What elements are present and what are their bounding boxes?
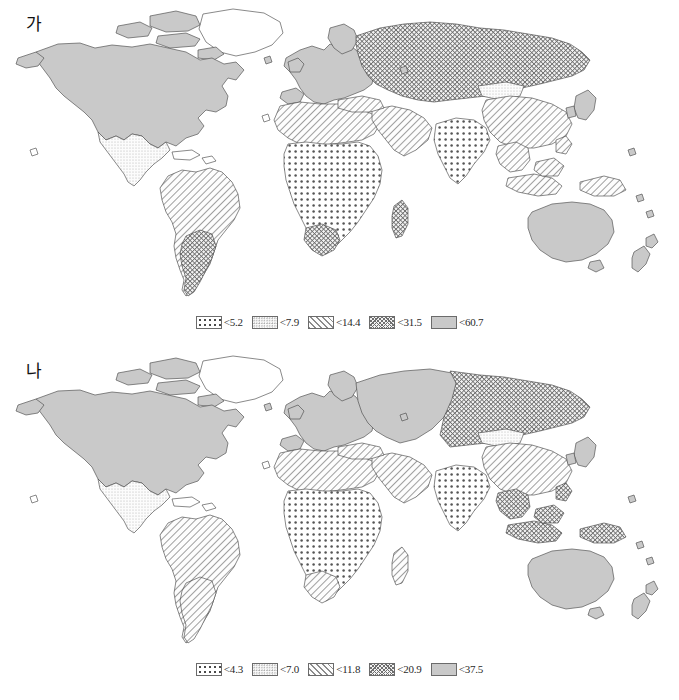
region-philippines: [556, 483, 572, 501]
region-japan: [574, 90, 596, 120]
region-new-guinea: [580, 176, 626, 196]
region-middle-east: [372, 453, 432, 503]
legend-swatch-solid-icon: [431, 316, 457, 329]
region-korea: [566, 106, 576, 118]
region-korea: [566, 453, 576, 465]
region-iberia: [280, 435, 304, 451]
region-island-speck: [30, 148, 38, 156]
world-map-a: [0, 0, 679, 305]
region-island-speck: [628, 495, 636, 503]
legend-label: <11.8: [336, 664, 360, 675]
region-tasmania: [588, 260, 604, 272]
legend-label: <37.5: [459, 664, 483, 675]
region-island-speck: [30, 495, 38, 503]
region-new-zealand: [646, 581, 658, 595]
region-southeast-asia: [496, 142, 530, 172]
region-india-south-asia: [434, 118, 490, 184]
panel-label-b: 나: [26, 363, 42, 380]
legend-swatch-solid-icon: [431, 663, 457, 676]
legend-swatch-dots-icon: [196, 663, 222, 676]
region-new-zealand: [646, 234, 658, 248]
region-indonesia: [506, 174, 562, 196]
legend-item[interactable]: <7.0: [252, 663, 299, 676]
figure-world-map-pair: 가: [0, 0, 679, 700]
legend-label: <20.9: [397, 664, 421, 675]
legend-swatch-stipple-icon: [252, 316, 278, 329]
region-island-speck: [646, 210, 654, 218]
map-panel-a: 가: [0, 0, 679, 340]
region-arctic-islands: [156, 380, 200, 395]
region-turkey-caucasus: [338, 443, 384, 459]
region-caribbean: [202, 156, 216, 164]
region-new-guinea: [580, 523, 626, 543]
legend-item[interactable]: <7.9: [252, 316, 299, 329]
legend-swatch-stipple-icon: [252, 663, 278, 676]
legend-label: <60.7: [459, 317, 483, 328]
legend-swatch-hatch-icon: [308, 316, 334, 329]
legend-swatch-cross-icon: [369, 663, 395, 676]
legend-item[interactable]: <14.4: [308, 316, 360, 329]
legend-item[interactable]: <20.9: [369, 663, 421, 676]
region-island-speck: [262, 461, 270, 469]
legend-swatch-cross-icon: [369, 316, 395, 329]
legend-swatch-hatch-icon: [308, 663, 334, 676]
region-arctic-islands: [116, 22, 152, 38]
legend-label: <7.9: [280, 317, 299, 328]
region-new-zealand: [632, 593, 650, 619]
world-map-b: [0, 347, 679, 652]
region-arctic-islands: [150, 11, 200, 32]
region-borneo: [534, 158, 564, 176]
legend-label: <4.3: [224, 664, 243, 675]
panel-label-a: 가: [26, 16, 42, 33]
region-russia-north-asia: [356, 22, 590, 102]
region-island-speck: [646, 557, 654, 565]
legend-item[interactable]: <11.8: [308, 663, 360, 676]
map-canvas-a: [0, 0, 679, 305]
region-new-zealand: [632, 246, 650, 272]
region-island-speck: [628, 148, 636, 156]
region-north-america: [36, 43, 244, 148]
legend-label: <31.5: [397, 317, 421, 328]
legend-label: <5.2: [224, 317, 243, 328]
region-island-speck: [264, 403, 272, 411]
legend-swatch-dots-icon: [196, 316, 222, 329]
region-indonesia: [506, 521, 562, 543]
legend-item[interactable]: <4.3: [196, 663, 243, 676]
region-southeast-asia: [496, 489, 530, 519]
region-island-speck: [636, 194, 644, 202]
region-madagascar: [392, 547, 408, 585]
region-tasmania: [588, 607, 604, 619]
region-caribbean: [172, 497, 200, 507]
region-arctic-islands: [116, 369, 152, 385]
map-canvas-b: [0, 347, 679, 652]
legend-item[interactable]: <37.5: [431, 663, 483, 676]
region-caribbean: [172, 150, 200, 160]
region-madagascar: [392, 200, 408, 238]
legend-label: <7.0: [280, 664, 299, 675]
legend-item[interactable]: <5.2: [196, 316, 243, 329]
region-middle-east: [372, 106, 432, 156]
region-philippines: [556, 136, 572, 154]
region-island-speck: [264, 56, 272, 64]
legend-a: <5.2 <7.9 <14.4 <31.5 <60.7: [0, 309, 679, 335]
legend-item[interactable]: <60.7: [431, 316, 483, 329]
legend-item[interactable]: <31.5: [369, 316, 421, 329]
region-north-america: [36, 390, 244, 495]
map-panel-b: 나: [0, 347, 679, 687]
region-borneo: [534, 505, 564, 523]
region-arctic-islands: [150, 358, 200, 379]
region-india-south-asia: [434, 465, 490, 531]
legend-b: <4.3 <7.0 <11.8 <20.9 <37.5: [0, 656, 679, 682]
region-japan: [574, 437, 596, 467]
region-island-speck: [262, 114, 270, 122]
region-australia: [528, 202, 614, 262]
region-caribbean: [202, 503, 216, 511]
region-australia: [528, 549, 614, 609]
legend-label: <14.4: [336, 317, 360, 328]
region-island-speck: [636, 541, 644, 549]
region-iberia: [280, 88, 304, 104]
region-arctic-islands: [156, 33, 200, 48]
region-turkey-caucasus: [338, 96, 384, 112]
